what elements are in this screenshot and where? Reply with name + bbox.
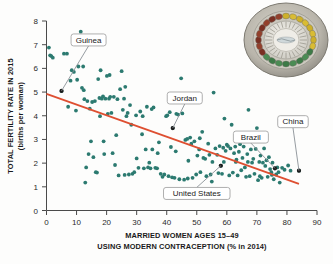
scatter-point <box>121 108 125 112</box>
fertility-contraception-scatter-figure: 012345678 0102030405060708090 TOTAL FERT… <box>0 0 333 264</box>
callout-label-jordan: Jordan <box>173 94 197 103</box>
scatter-point <box>203 157 207 161</box>
scatter-point <box>134 113 138 117</box>
scatter-point <box>142 166 146 170</box>
scatter-point <box>152 106 156 110</box>
scatter-point <box>120 69 124 73</box>
x-tick-label: 50 <box>192 218 201 227</box>
scatter-point <box>99 68 103 72</box>
callout-label-united-states: United States <box>173 189 221 198</box>
scatter-point <box>256 178 260 182</box>
scatter-point <box>157 140 161 144</box>
scatter-point <box>186 159 190 163</box>
scatter-point <box>81 65 85 69</box>
callout-label-guinea: Guinea <box>76 36 102 45</box>
y-tick-label: 5 <box>34 88 39 97</box>
scatter-point <box>98 114 102 118</box>
scatter-point <box>122 97 126 101</box>
scatter-point <box>237 150 241 154</box>
y-tick-label: 1 <box>34 183 39 192</box>
scatter-point <box>137 166 141 170</box>
x-tick-label: 90 <box>313 218 322 227</box>
scatter-point <box>82 88 86 92</box>
scatter-point <box>266 175 270 179</box>
y-tick-label: 4 <box>34 112 39 121</box>
y-tick-label: 7 <box>34 41 39 50</box>
scatter-point <box>87 152 91 156</box>
scatter-point <box>167 174 171 178</box>
scatter-point <box>155 166 159 170</box>
scatter-point <box>117 174 121 178</box>
scatter-point <box>95 171 99 175</box>
x-tick-label: 60 <box>222 218 231 227</box>
scatter-point <box>224 149 228 153</box>
scatter-point <box>144 147 148 151</box>
scatter-point <box>123 173 127 177</box>
scatter-point <box>192 139 196 143</box>
scatter-point <box>83 181 87 185</box>
scatter-point <box>102 152 106 156</box>
scatter-point <box>208 153 212 157</box>
scatter-point <box>104 97 108 101</box>
scatter-point <box>277 170 281 174</box>
scatter-point <box>174 149 178 153</box>
scatter-point <box>177 177 181 181</box>
scatter-point <box>126 111 130 115</box>
scatter-point <box>248 174 252 178</box>
scatter-point <box>246 160 250 164</box>
scatter-point <box>272 177 276 181</box>
scatter-point <box>79 30 83 34</box>
scatter-point <box>244 175 248 179</box>
scatter-point <box>135 156 139 160</box>
scatter-point <box>110 111 114 115</box>
scatter-point <box>198 136 202 140</box>
x-tick-label: 10 <box>72 218 81 227</box>
scatter-point <box>229 147 233 151</box>
scatter-point <box>113 163 117 167</box>
scatter-point <box>223 117 227 121</box>
scatter-point <box>123 85 127 89</box>
scatter-point <box>62 52 66 56</box>
scatter-point <box>162 173 166 177</box>
scatter-point <box>211 160 215 164</box>
scatter-point <box>245 152 249 156</box>
scatter-point <box>186 177 190 181</box>
scatter-point <box>198 170 202 174</box>
scatter-point <box>191 176 195 180</box>
scatter-point <box>206 142 210 146</box>
scatter-point <box>267 155 271 159</box>
scatter-point <box>118 87 122 91</box>
callout-leader-line <box>197 166 221 188</box>
scatter-point <box>210 180 214 184</box>
y-axis-ticks: 012345678 <box>34 17 47 216</box>
scatter-point <box>93 99 97 103</box>
scatter-point <box>221 146 225 150</box>
callout-label-brazil: Brazil <box>241 133 261 142</box>
scatter-point <box>112 95 116 99</box>
scatter-point <box>217 171 221 175</box>
scatter-point <box>91 155 95 159</box>
scatter-point <box>257 160 261 164</box>
x-tick-label: 80 <box>282 218 291 227</box>
scatter-point <box>263 164 267 168</box>
scatter-point <box>289 169 293 173</box>
scatter-point <box>147 161 151 165</box>
scatter-point <box>47 46 51 50</box>
scatter-point <box>165 113 169 117</box>
scatter-point <box>102 139 106 143</box>
scatter-point <box>231 171 235 175</box>
scatter-point <box>195 154 199 158</box>
scatter-point <box>220 172 224 176</box>
scatter-point <box>242 145 246 149</box>
y-tick-label: 2 <box>34 159 39 168</box>
scatter-point <box>249 147 253 151</box>
scatter-point <box>138 110 142 114</box>
scatter-point <box>233 145 237 149</box>
callout-leader-line <box>293 128 299 171</box>
scatter-point <box>85 99 89 103</box>
scatter-point <box>261 161 265 165</box>
x-tick-label: 40 <box>162 218 171 227</box>
scatter-point <box>182 178 186 182</box>
scatter-point <box>150 147 154 151</box>
scatter-point <box>145 105 149 109</box>
